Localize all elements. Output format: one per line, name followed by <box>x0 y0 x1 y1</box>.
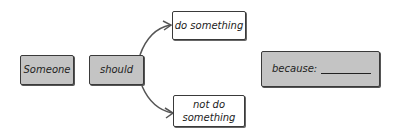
node-subject: Someone <box>20 55 74 85</box>
node-option-do-label: do something <box>175 19 244 33</box>
node-subject-label: Someone <box>24 63 71 77</box>
node-option-not-do: not do something <box>173 95 245 127</box>
node-option-not-do-line1: not do <box>193 98 225 112</box>
node-option-not-do-line2: something <box>183 111 236 125</box>
node-modal-label: should <box>100 63 133 77</box>
reason-blank-line <box>321 64 371 74</box>
node-modal: should <box>89 55 144 85</box>
node-option-do: do something <box>172 11 246 40</box>
node-reason: because: <box>261 51 380 87</box>
node-reason-label: because: <box>272 62 317 76</box>
